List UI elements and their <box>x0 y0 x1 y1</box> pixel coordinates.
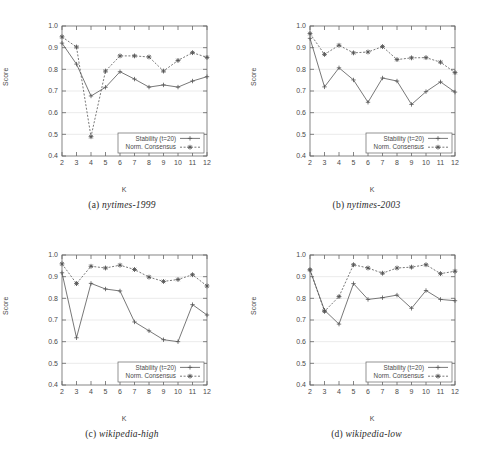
x-tick-label: 6 <box>118 388 122 395</box>
star-marker-icon <box>322 309 327 314</box>
x-tick-label: 8 <box>395 159 399 166</box>
x-tick-label: 10 <box>422 159 430 166</box>
star-marker-icon <box>176 58 181 63</box>
plus-marker-icon <box>161 338 165 342</box>
x-tick-label: 12 <box>451 388 459 395</box>
plus-marker-icon <box>60 271 64 275</box>
star-marker-icon <box>60 261 65 266</box>
star-marker-icon <box>438 271 443 276</box>
star-marker-icon <box>89 134 94 139</box>
star-marker-icon <box>205 55 210 60</box>
y-tick-label: 0.9 <box>48 44 58 51</box>
plus-marker-icon <box>205 75 209 79</box>
x-tick-label: 7 <box>381 159 385 166</box>
y-tick-label: 1.0 <box>48 22 58 29</box>
plus-marker-icon <box>74 336 78 340</box>
x-tick-label: 2 <box>60 159 64 166</box>
y-tick-label: 0.7 <box>296 87 306 94</box>
caption-name-d: wikipedia-low <box>345 429 401 439</box>
x-tick-label: 9 <box>410 159 414 166</box>
star-marker-icon <box>188 145 193 150</box>
figure-grid: Score 0.40.50.60.70.80.91.02345678910111… <box>0 0 489 458</box>
x-tick-label: 12 <box>203 388 211 395</box>
star-marker-icon <box>103 266 108 271</box>
plus-marker-icon <box>89 281 93 285</box>
panel-caption-c: (c) wikipedia-high <box>0 429 244 439</box>
x-tick-label: 5 <box>352 388 356 395</box>
y-tick-label: 0.4 <box>48 381 58 388</box>
star-marker-icon <box>366 50 371 55</box>
x-tick-label: 5 <box>104 159 108 166</box>
series-consensus <box>308 31 458 75</box>
y-tick-label: 0.8 <box>48 66 58 73</box>
star-marker-icon <box>351 50 356 55</box>
x-tick-label: 2 <box>60 388 64 395</box>
plus-marker-icon <box>147 85 151 89</box>
plus-marker-icon <box>176 339 180 343</box>
plus-marker-icon <box>103 287 107 291</box>
y-tick-label: 0.6 <box>48 338 58 345</box>
x-tick-label: 11 <box>189 388 196 395</box>
panel-c: Score 0.40.50.60.70.80.91.02345678910111… <box>0 229 244 458</box>
panel-d: Score 0.40.50.60.70.80.91.02345678910111… <box>244 229 489 458</box>
star-marker-icon <box>380 44 385 49</box>
panel-a: Score 0.40.50.60.70.80.91.02345678910111… <box>0 0 244 229</box>
star-marker-icon <box>161 279 166 284</box>
star-marker-icon <box>453 269 458 274</box>
y-tick-label: 0.9 <box>296 273 306 280</box>
chart-legend: Stability (t=20)Norm. Consensus <box>366 133 452 153</box>
series-consensus <box>60 34 210 139</box>
plus-marker-icon <box>366 100 370 104</box>
star-marker-icon <box>322 52 327 57</box>
star-marker-icon <box>132 267 137 272</box>
y-tick-label: 0.6 <box>296 338 306 345</box>
y-tick-label: 0.8 <box>296 66 306 73</box>
y-axis-label-a: Score <box>2 68 9 86</box>
star-marker-icon <box>147 55 152 60</box>
y-tick-label: 0.4 <box>296 152 306 159</box>
caption-tag-b: (b) <box>333 200 345 210</box>
y-tick-label: 0.9 <box>48 273 58 280</box>
star-marker-icon <box>337 294 342 299</box>
y-tick-label: 0.7 <box>296 316 306 323</box>
y-tick-label: 0.5 <box>48 131 58 138</box>
star-marker-icon <box>103 69 108 74</box>
plus-marker-icon <box>395 79 399 83</box>
star-marker-icon <box>453 70 458 75</box>
plus-marker-icon <box>118 289 122 293</box>
plot-area-b: 0.40.50.60.70.80.91.023456789101112Stabi… <box>284 20 460 178</box>
x-tick-label: 6 <box>366 159 370 166</box>
plus-marker-icon <box>453 299 457 303</box>
star-marker-icon <box>409 55 414 60</box>
chart-svg-c: 0.40.50.60.70.80.91.023456789101112Stabi… <box>36 249 212 407</box>
star-marker-icon <box>132 54 137 59</box>
x-tick-label: 10 <box>174 159 182 166</box>
star-marker-icon <box>190 272 195 277</box>
plus-marker-icon <box>380 76 384 80</box>
x-tick-label: 3 <box>75 388 79 395</box>
x-tick-label: 4 <box>337 388 341 395</box>
star-marker-icon <box>205 284 210 289</box>
caption-tag-a: (a) <box>88 200 99 210</box>
panel-caption-b: (b) nytimes-2003 <box>244 200 489 210</box>
star-marker-icon <box>409 265 414 270</box>
plus-marker-icon <box>308 36 312 40</box>
y-tick-label: 0.5 <box>296 360 306 367</box>
plus-marker-icon <box>190 79 194 83</box>
star-marker-icon <box>161 69 166 74</box>
plus-marker-icon <box>176 85 180 89</box>
star-marker-icon <box>351 262 356 267</box>
y-tick-label: 0.5 <box>48 360 58 367</box>
y-tick-label: 0.6 <box>296 109 306 116</box>
caption-name-a: nytimes-1999 <box>102 200 156 210</box>
x-tick-label: 7 <box>133 159 137 166</box>
star-marker-icon <box>436 374 441 379</box>
legend-label-consensus: Norm. Consensus <box>126 143 176 150</box>
x-tick-label: 3 <box>323 388 327 395</box>
plus-marker-icon <box>161 83 165 87</box>
x-axis-label-c: K <box>36 415 212 422</box>
y-tick-label: 1.0 <box>296 22 306 29</box>
legend-label-stability: Stability (t=20) <box>384 364 424 372</box>
y-tick-label: 0.5 <box>296 131 306 138</box>
caption-tag-d: (d) <box>331 429 343 439</box>
